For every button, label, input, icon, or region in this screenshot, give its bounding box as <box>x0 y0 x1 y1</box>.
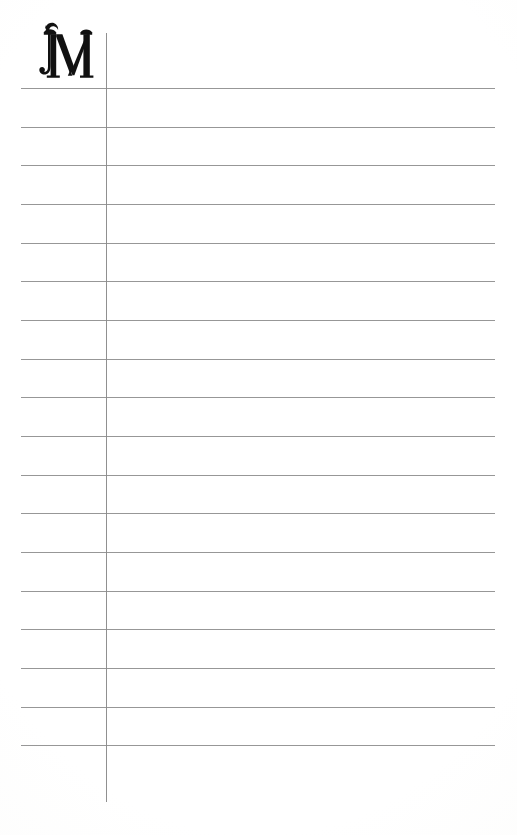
rule-line <box>21 436 495 437</box>
rule-line <box>21 359 495 360</box>
rule-line <box>21 745 495 746</box>
rule-line <box>21 127 495 128</box>
rule-line <box>21 707 495 708</box>
decorative-initial-m <box>33 22 98 88</box>
rule-line <box>21 204 495 205</box>
rule-line <box>21 629 495 630</box>
column-divider-line <box>106 33 107 802</box>
rule-line <box>21 552 495 553</box>
rule-line <box>21 513 495 514</box>
rule-line <box>21 88 495 89</box>
rule-line <box>21 165 495 166</box>
rule-line <box>21 320 495 321</box>
rule-line <box>21 668 495 669</box>
rule-line <box>21 243 495 244</box>
rule-line <box>21 475 495 476</box>
ruled-lines-layer <box>0 0 517 835</box>
rule-line <box>21 397 495 398</box>
decorative-initial-m <box>37 18 95 88</box>
rule-line <box>21 591 495 592</box>
rule-line <box>21 281 495 282</box>
register-page <box>0 0 517 835</box>
